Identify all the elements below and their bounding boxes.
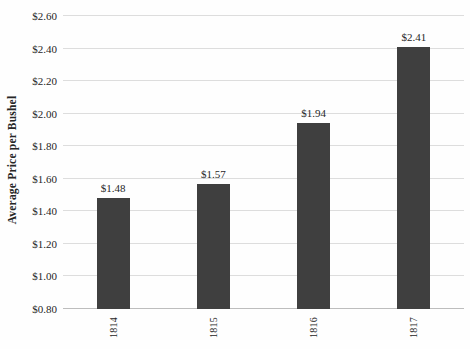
- y-tick-label: $1.00: [0, 270, 57, 282]
- plot-area: [63, 16, 464, 309]
- y-tick-label: $1.20: [0, 238, 57, 250]
- bar-value-label: $2.41: [364, 30, 464, 44]
- y-tick-label: $1.80: [0, 140, 57, 152]
- y-tick-label: $2.20: [0, 75, 57, 87]
- x-tick-label: 1816: [264, 312, 364, 342]
- x-tick-label: 1814: [63, 312, 163, 342]
- bar-value-label: $1.48: [63, 181, 163, 195]
- bar-value-label: $1.94: [264, 106, 364, 120]
- y-tick-label: $2.60: [0, 10, 57, 22]
- y-tick-label: $1.60: [0, 173, 57, 185]
- bar-value-label: $1.57: [163, 167, 263, 181]
- x-tick-label: 1815: [163, 312, 263, 342]
- y-tick-label: $2.00: [0, 108, 57, 120]
- bar: [397, 47, 430, 309]
- bar: [197, 184, 230, 309]
- bar: [297, 123, 330, 309]
- y-tick-label: $1.40: [0, 205, 57, 217]
- x-tick-label: 1817: [364, 312, 464, 342]
- bar-chart: Average Price per Bushel $0.80$1.00$1.20…: [0, 0, 470, 349]
- gridline: [63, 15, 464, 16]
- bar: [97, 198, 130, 309]
- y-tick-label: $0.80: [0, 303, 57, 315]
- y-tick-label: $2.40: [0, 43, 57, 55]
